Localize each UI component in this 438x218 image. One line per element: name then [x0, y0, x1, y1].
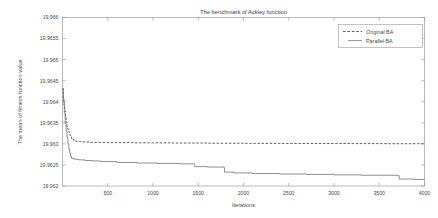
- x-tick-label: 2500: [283, 190, 295, 196]
- x-tick-label: 3000: [328, 190, 340, 196]
- chart-title: The benchmark of Ackley function: [200, 9, 287, 15]
- y-tick-label: 19.9655: [40, 35, 59, 41]
- x-tick-label: 500: [103, 190, 112, 196]
- x-tick-label: 3500: [373, 190, 385, 196]
- y-tick-label: 19.963: [43, 141, 59, 147]
- y-tick-label: 19.966: [43, 14, 59, 20]
- x-axis-title: Iterations: [232, 202, 255, 208]
- x-tick-label: 1500: [192, 190, 204, 196]
- y-tick-label: 19.9635: [40, 120, 59, 126]
- y-tick-label: 19.9645: [40, 78, 59, 84]
- chart-figure: The benchmark of Ackley function 19.9621…: [0, 0, 438, 218]
- x-tick-label: 4000: [419, 190, 431, 196]
- x-tick-label: 2000: [238, 190, 250, 196]
- y-axis-title: The mean of fitness function value: [17, 59, 23, 144]
- y-tick-label: 19.964: [43, 99, 59, 105]
- x-tick-label: 1000: [147, 190, 159, 196]
- legend[interactable]: Original BA Parallel BA: [339, 25, 423, 48]
- y-tick-label: 19.962: [43, 183, 59, 189]
- benchmark-line-chart: The benchmark of Ackley function 19.9621…: [0, 0, 438, 218]
- y-tick-label: 19.9625: [40, 162, 59, 168]
- y-tick-label: 19.965: [43, 57, 59, 63]
- legend-label-parallel-ba[interactable]: Parallel BA: [366, 38, 393, 44]
- legend-label-original-ba[interactable]: Original BA: [366, 29, 394, 35]
